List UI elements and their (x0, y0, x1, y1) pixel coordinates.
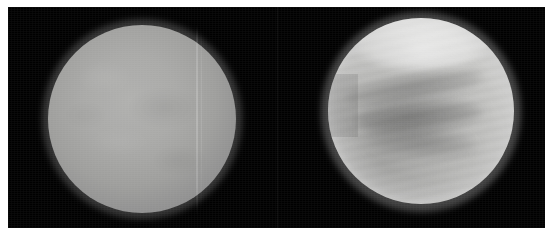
venus-uv-bright-limb-crescent (328, 18, 514, 204)
venus-two-view-figure (0, 0, 553, 244)
venus-disk-ultraviolet (328, 18, 514, 204)
image-plate (8, 7, 545, 228)
panel-seam-divider (277, 7, 278, 228)
panel-ultraviolet (277, 7, 545, 228)
scan-line-artifact-secondary-icon (201, 27, 202, 213)
panel-visible-light (8, 7, 277, 228)
venus-visible-cloud-mottling (48, 25, 236, 213)
scan-line-artifact-icon (196, 25, 198, 215)
